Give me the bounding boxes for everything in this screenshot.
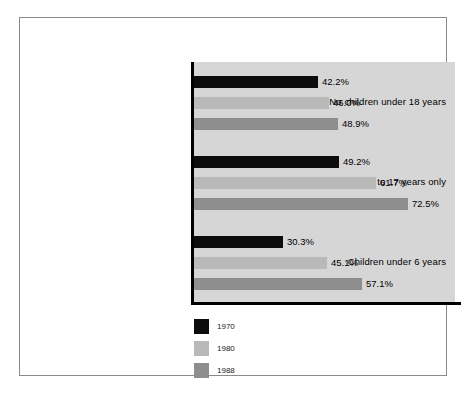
bar-children-under-6-1980 <box>194 257 327 269</box>
bar-value-no-children-1988: 48.9% <box>342 118 369 130</box>
bar-children-under-6-1988 <box>194 278 362 290</box>
bar-value-no-children-1970: 42.2% <box>322 76 349 88</box>
bar-value-children-6-to-17-1980: 61.7% <box>380 177 407 189</box>
legend-label-1970: 1970 <box>217 321 235 332</box>
bar-value-children-6-to-17-1970: 49.2% <box>343 156 370 168</box>
bar-no-children-1980 <box>194 97 329 109</box>
bar-value-no-children-1980: 46.0% <box>333 97 360 109</box>
bar-no-children-1988 <box>194 118 338 130</box>
legend-swatch-1988 <box>194 363 209 378</box>
figure-frame: No children under 18 years 42.2% 46.0% 4… <box>19 17 447 376</box>
legend-label-1980: 1980 <box>217 343 235 354</box>
bar-no-children-1970 <box>194 76 318 88</box>
bar-children-under-6-1970 <box>194 236 283 248</box>
bar-value-children-6-to-17-1988: 72.5% <box>412 198 439 210</box>
legend-swatch-1980 <box>194 341 209 356</box>
bar-children-6-to-17-1970 <box>194 156 339 168</box>
bar-value-children-under-6-1988: 57.1% <box>366 278 393 290</box>
legend-swatch-1970 <box>194 319 209 334</box>
legend-label-1988: 1988 <box>217 365 235 376</box>
bar-children-6-to-17-1988 <box>194 198 408 210</box>
bar-value-children-under-6-1980: 45.1% <box>331 257 358 269</box>
bar-children-6-to-17-1980 <box>194 177 376 189</box>
x-axis-line <box>191 302 461 305</box>
bar-value-children-under-6-1970: 30.3% <box>287 236 314 248</box>
chart-figure: No children under 18 years 42.2% 46.0% 4… <box>0 0 464 393</box>
